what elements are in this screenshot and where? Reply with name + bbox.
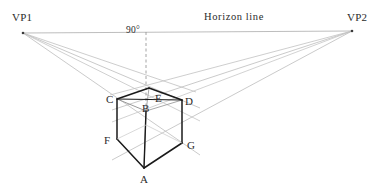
vanishing-point-vp1-dot bbox=[22, 32, 25, 35]
perspective-diagram: VP1 VP2 Horizon line 90° C E D B F G A bbox=[0, 0, 377, 191]
label-vertex-G: G bbox=[187, 140, 195, 151]
cube-edge-A-G bbox=[144, 143, 182, 168]
construction-line-vp1-to-B bbox=[23, 33, 200, 121]
interior-guide-B-G bbox=[146, 125, 182, 143]
label-vertex-F: F bbox=[104, 135, 110, 146]
label-vertex-E: E bbox=[155, 93, 162, 104]
label-vp1: VP1 bbox=[12, 12, 32, 23]
label-vertex-A: A bbox=[140, 174, 148, 185]
cube-edge-F-A bbox=[117, 139, 144, 168]
label-horizon-line: Horizon line bbox=[204, 12, 264, 23]
label-vertex-D: D bbox=[185, 96, 193, 107]
interior-guide-F-B bbox=[117, 125, 146, 139]
cube-edge-A-B-front-vertical bbox=[144, 111, 146, 168]
label-right-angle: 90° bbox=[126, 26, 140, 36]
construction-line-vp2-to-E bbox=[110, 31, 352, 95]
label-vp2: VP2 bbox=[347, 12, 367, 23]
vanishing-point-vp2-dot bbox=[351, 30, 354, 33]
horizon-line bbox=[23, 31, 352, 33]
construction-line-vp1-to-E bbox=[23, 33, 196, 92]
label-vertex-C: C bbox=[106, 94, 114, 105]
label-vertex-B: B bbox=[142, 103, 150, 114]
